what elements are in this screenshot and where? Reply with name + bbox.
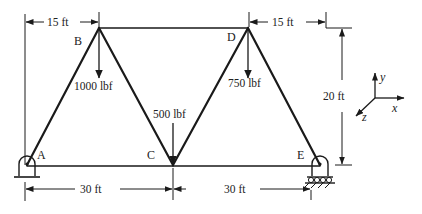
axis-label-x: x: [391, 101, 398, 115]
roller-support-e: [304, 156, 335, 188]
axis-label-y: y: [379, 70, 386, 84]
dim-bottom-right: 30 ft: [224, 183, 246, 195]
load-label-b: 1000 lbf: [74, 80, 113, 92]
dim-height: 20 ft: [323, 90, 345, 102]
load-label-c: 500 lbf: [153, 108, 186, 120]
node-label-e: E: [297, 148, 304, 162]
node-label-b: B: [74, 34, 82, 48]
dim-bottom-left: 30 ft: [80, 183, 102, 195]
load-label-d: 750 lbf: [228, 77, 261, 89]
member-ab: [27, 28, 99, 165]
axis-label-z: z: [361, 110, 367, 124]
dim-top-left: 15 ft: [47, 16, 69, 28]
member-cd: [173, 28, 248, 165]
node-label-d: D: [227, 30, 236, 44]
node-label-c: C: [147, 148, 155, 162]
member-bc: [99, 28, 173, 165]
truss-diagram: A B C D E 1000 lbf 500 lbf 750 lbf 15 ft…: [0, 0, 422, 214]
dim-top-right: 15 ft: [272, 16, 294, 28]
member-de: [248, 28, 320, 165]
node-label-a: A: [37, 148, 46, 162]
